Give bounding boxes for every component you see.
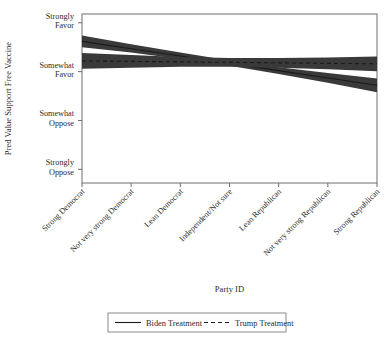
y-tick-label: SomewhatFavor: [39, 61, 74, 80]
x-axis-title: Party ID: [215, 284, 244, 294]
y-axis-title: Pred Value Support Free Vaccine: [3, 42, 13, 155]
series-trump: [82, 53, 377, 71]
y-tick-label: StronglyFavor: [46, 12, 75, 31]
x-axis: Strong DemocratNot very strong DemocratL…: [40, 183, 381, 258]
x-tick-label: Strong Republican: [332, 187, 382, 237]
prediction-plot: StronglyFavorSomewhatFavorSomewhatOppose…: [0, 0, 391, 344]
y-axis: StronglyFavorSomewhatFavorSomewhatOppose…: [39, 12, 82, 177]
x-tick-label: Lean Republican: [237, 187, 283, 233]
legend-label: Trump Treatment: [235, 319, 294, 328]
x-tick-label: Strong Democrat: [40, 187, 87, 234]
x-tick-label: Independent/Not sure: [178, 187, 235, 244]
plot-frame: [82, 14, 377, 183]
y-tick-label: SomewhatOppose: [39, 109, 74, 128]
x-tick-label: Lean Democrat: [143, 187, 186, 230]
legend-label: Biden Treatment: [146, 319, 203, 328]
y-tick-label: StronglyOppose: [46, 158, 75, 177]
chart-figure: StronglyFavorSomewhatFavorSomewhatOppose…: [0, 0, 391, 344]
chart-legend: Biden TreatmentTrump Treatment: [108, 313, 294, 332]
